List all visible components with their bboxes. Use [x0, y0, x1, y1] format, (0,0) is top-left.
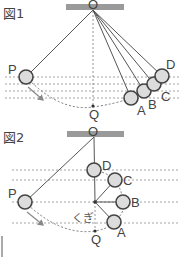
string-p: [25, 137, 94, 202]
label-a: A: [117, 225, 126, 240]
label-p: P: [8, 186, 17, 201]
label-c: C: [123, 173, 132, 188]
label-nail: くぎ: [72, 211, 94, 225]
pendulum-diagram: 図1 O P Q A B C D: [0, 0, 179, 257]
string-d: [93, 10, 162, 76]
string-a: [93, 10, 131, 98]
swing-path: [25, 202, 114, 232]
label-d: D: [166, 57, 175, 72]
label-b: B: [131, 195, 140, 210]
label-c: C: [161, 89, 170, 104]
figure-1-title: 図1: [3, 6, 24, 21]
ball-c: [108, 173, 122, 187]
label-b: B: [148, 97, 157, 112]
ball-p: [18, 195, 32, 209]
string-c: [93, 10, 154, 84]
pivot-label-o: O: [88, 124, 98, 139]
ball-d: [87, 163, 101, 177]
label-p: P: [8, 62, 17, 77]
string-b: [93, 10, 144, 91]
figure-1: 図1 O P Q A B C D: [3, 0, 179, 122]
page-edge-mark: [1, 236, 3, 257]
label-d: D: [102, 158, 111, 173]
label-q: Q: [91, 232, 101, 247]
swing-path: [26, 77, 131, 108]
ball-a: [124, 91, 138, 105]
label-a: A: [137, 103, 146, 118]
nail-icon: [93, 200, 97, 204]
label-q: Q: [89, 107, 99, 122]
ball-p: [19, 70, 33, 84]
figure-2: 図2 O くぎ P Q A B: [3, 124, 179, 247]
figure-2-title: 図2: [3, 130, 24, 145]
ball-b: [116, 195, 130, 209]
string-p: [26, 10, 93, 77]
